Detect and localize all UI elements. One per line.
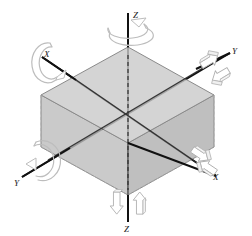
axis-label-x-upper-left: X bbox=[43, 49, 50, 59]
axis-label-x-lower-right: X bbox=[212, 172, 219, 182]
translation-arrow-z-up-icon bbox=[133, 192, 146, 214]
axis-label-y-lower-left: Y bbox=[14, 178, 20, 188]
translation-arrow-y-negative-icon bbox=[207, 65, 233, 89]
axis-label-z-top: Z bbox=[133, 10, 139, 20]
translation-arrow-z-down-icon bbox=[110, 190, 123, 215]
axis-label-z-bottom: Z bbox=[124, 224, 130, 234]
dof-diagram-root: Z Z X X Y bbox=[0, 0, 252, 236]
rotation-arrow-z-icon bbox=[108, 18, 154, 45]
diagram-canvas: Z Z X X Y bbox=[0, 0, 252, 236]
axis-label-y-upper-right: Y bbox=[232, 46, 238, 56]
